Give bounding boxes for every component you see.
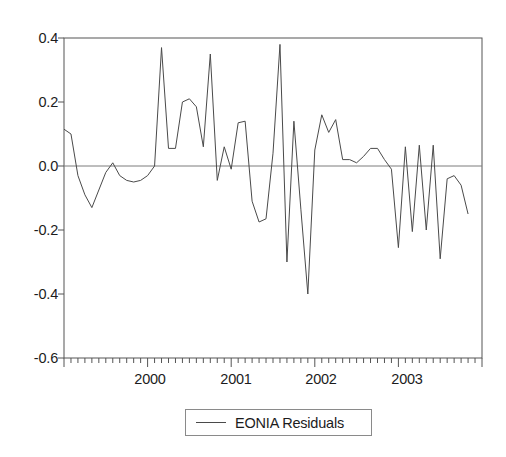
plot-area — [0, 0, 506, 457]
legend: EONIA Residuals — [185, 409, 372, 436]
y-axis-ticks — [58, 38, 64, 358]
legend-line-swatch — [196, 422, 226, 423]
x-axis-ticks — [64, 358, 482, 367]
legend-label: EONIA Residuals — [235, 415, 356, 431]
plot-frame — [64, 38, 482, 358]
series-line-eonia-residuals — [64, 44, 468, 294]
chart-figure: 0.4 0.2 0.0 -0.2 -0.4 -0.6 2000 2001 200… — [0, 0, 506, 457]
